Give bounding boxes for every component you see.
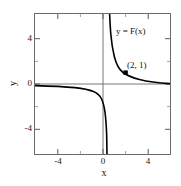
curve-label: y = F(x) <box>116 26 146 36</box>
xtick-label--4: -4 <box>48 157 68 166</box>
y-axis-title: y <box>7 75 18 93</box>
data-point-marker <box>123 70 127 74</box>
curve-right-branch <box>110 14 170 84</box>
x-axis-title: x <box>94 167 114 178</box>
figure-container: -4 0 4 4 0 -4 x y y = F(x) (2, 1) <box>0 0 181 186</box>
point-label: (2, 1) <box>127 60 147 70</box>
ytick-label--4: -4 <box>14 124 32 133</box>
axis-lines <box>35 14 170 154</box>
curve-left-branch <box>35 86 107 155</box>
xtick-label-4: 4 <box>138 157 158 166</box>
xtick-label-0: 0 <box>93 157 113 166</box>
ytick-label-4: 4 <box>14 34 32 43</box>
